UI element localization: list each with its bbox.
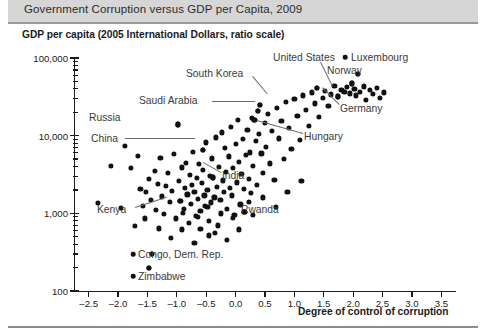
data-point [197, 162, 202, 167]
annotation-label: Zimbabwe [138, 271, 186, 282]
data-point [251, 163, 256, 168]
data-point-labelled [255, 108, 260, 113]
data-point [285, 189, 290, 194]
data-point [312, 101, 317, 106]
x-axis-tick-label: 1.0 [288, 298, 301, 309]
data-point [233, 141, 238, 146]
data-point [309, 90, 314, 95]
data-point [301, 93, 306, 98]
data-point [374, 85, 379, 90]
data-point [184, 160, 189, 165]
data-point [194, 175, 199, 180]
data-point [320, 95, 325, 100]
data-point [279, 118, 284, 123]
data-point [254, 182, 259, 187]
data-point [248, 190, 253, 195]
x-axis-tick-label: 0.0 [229, 298, 242, 309]
data-point [235, 117, 240, 122]
data-point [188, 201, 193, 206]
data-point [207, 218, 212, 223]
data-point [123, 143, 128, 148]
data-point [198, 208, 203, 213]
title-banner: Government Corruption versus GDP per Cap… [8, 0, 478, 24]
data-point-labelled [201, 148, 206, 153]
data-point [195, 214, 200, 219]
x-axis-tick-label: 3.5 [435, 298, 448, 309]
data-point [218, 198, 223, 203]
data-point [378, 95, 383, 100]
annotation-label: Luxembourg [351, 52, 408, 63]
data-point [229, 193, 234, 198]
y-axis-tick-label: 100 [52, 286, 68, 297]
data-point [265, 111, 270, 116]
data-point [226, 154, 231, 159]
data-point [195, 196, 200, 201]
data-point [208, 200, 213, 205]
data-point [199, 181, 204, 186]
data-point [155, 181, 160, 186]
annotation-label: Hungary [304, 131, 343, 142]
x-axis-tick-label: –1.5 [138, 298, 157, 309]
data-point [224, 237, 229, 242]
x-axis-tick-label: –2.0 [109, 298, 128, 309]
data-point [237, 159, 242, 164]
data-point-labelled [211, 175, 216, 180]
data-point [177, 179, 182, 184]
x-axis-tick [294, 292, 295, 297]
annotation-label: South Korea [186, 68, 243, 79]
chart-page: Government Corruption versus GDP per Cap… [0, 0, 486, 335]
data-point [200, 168, 205, 173]
data-point-labelled [146, 265, 151, 270]
data-point-labelled [175, 122, 180, 127]
data-point [173, 216, 178, 221]
data-point [267, 161, 272, 166]
data-point [212, 230, 217, 235]
data-point [185, 192, 190, 197]
data-point [198, 226, 203, 231]
annotation-label: India [222, 170, 244, 181]
data-point-labelled [349, 81, 354, 86]
data-point [164, 183, 169, 188]
data-point [246, 176, 251, 181]
x-axis-tick [323, 292, 324, 297]
x-axis-tick [264, 292, 265, 297]
data-point [298, 137, 303, 142]
data-point [167, 199, 172, 204]
data-point-labelled [314, 85, 319, 90]
x-axis-tick [117, 292, 118, 297]
data-point [269, 128, 274, 133]
data-point [191, 149, 196, 154]
data-point [179, 165, 184, 170]
data-point [260, 195, 265, 200]
data-point [316, 114, 321, 119]
data-point [138, 187, 143, 192]
data-point [154, 207, 159, 212]
annotation-label: Russia [89, 112, 120, 123]
x-axis-tick-label: 1.5 [317, 298, 330, 309]
data-point [289, 146, 294, 151]
data-point [214, 184, 219, 189]
data-point [190, 183, 195, 188]
data-point [304, 107, 309, 112]
x-axis-tick [206, 292, 207, 297]
data-point [272, 177, 277, 182]
data-point [247, 150, 252, 155]
data-point [204, 140, 209, 145]
data-point [144, 189, 149, 194]
data-point [245, 127, 250, 132]
data-point [222, 146, 227, 151]
annotation-label: Kenya [97, 204, 126, 215]
x-axis-tick [411, 292, 412, 297]
data-point [299, 179, 304, 184]
data-point [132, 223, 137, 228]
data-point [158, 155, 163, 160]
x-axis-tick-label: –1.0 [168, 298, 187, 309]
data-point [128, 166, 133, 171]
data-point [179, 227, 184, 232]
data-point [277, 136, 282, 141]
data-point [146, 177, 151, 182]
data-point [227, 185, 232, 190]
data-point [152, 168, 157, 173]
data-point [157, 226, 162, 231]
annotation-leader-line [212, 101, 255, 102]
